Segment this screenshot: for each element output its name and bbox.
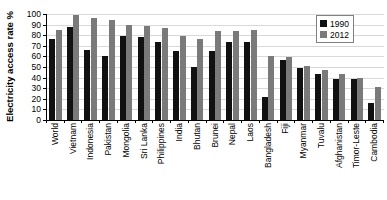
bar-2012-mongolia [126,25,132,120]
bar-2012-myanmar [304,66,310,120]
bar-group [153,14,171,120]
y-tick-label: 30 [32,84,41,92]
x-tick-mark [330,120,331,123]
bar-2012-tuvalu [322,70,328,120]
bar-1990-india [173,51,179,120]
x-tick-mark [99,120,100,123]
bar-2012-afghanistan [339,74,345,120]
x-tick-mark [241,120,242,123]
bar-1990-fiji [280,60,286,120]
bar-group [278,14,296,120]
bar-1990-indonesia [84,50,90,120]
bar-2012-fiji [286,57,292,120]
legend-item: 1990 [320,18,349,29]
bar-group [260,14,278,120]
bar-1990-philippines [155,42,161,120]
bar-1990-afghanistan [333,79,339,120]
bar-group [366,14,384,120]
x-tick-mark [348,120,349,123]
electricity-access-rate-bar-chart: Electricity access rate % 01020304050607… [0,0,387,200]
bar-1990-brunei [209,51,215,120]
bar-1990-mongolia [120,36,126,120]
x-tick-mark [223,120,224,123]
x-tick-mark [365,120,366,123]
y-tick-label: 100 [27,10,41,18]
bar-group [100,14,118,120]
x-tick-mark [152,120,153,123]
bar-1990-laos [244,42,250,120]
legend-label-1990: 1990 [330,19,349,29]
x-tick-mark [46,120,47,123]
y-tick-label: 10 [32,105,41,113]
bar-group [47,14,65,120]
bar-1990-sri-lanka [138,37,144,120]
bar-2012-brunei [215,31,221,120]
bar-1990-pakistan [102,56,108,120]
bar-group [207,14,225,120]
y-tick-label: 90 [32,21,41,29]
y-tick-label: 60 [32,52,41,60]
legend-item: 2012 [320,29,349,40]
x-tick-mark [294,120,295,123]
bar-group [295,14,313,120]
bar-1990-myanmar [297,68,303,120]
x-tick-mark [170,120,171,123]
bar-2012-vietnam [73,15,79,120]
bar-2012-india [180,36,186,120]
bar-group [136,14,154,120]
x-tick-mark [135,120,136,123]
bar-group [82,14,100,120]
x-tick-mark [117,120,118,123]
y-axis-ticks: 0102030405060708090100 [0,14,46,120]
bar-2012-laos [251,30,257,120]
bar-2012-bhutan [197,39,203,120]
bar-1990-tuvalu [315,74,321,120]
x-tick-mark [277,120,278,123]
bar-group [189,14,207,120]
bar-2012-nepal [233,31,239,120]
bar-2012-indonesia [91,18,97,120]
legend-swatch-1990-icon [320,20,327,27]
bar-2012-sri-lanka [144,26,150,120]
bar-1990-nepal [226,42,232,120]
y-tick-label: 70 [32,42,41,50]
y-tick-label: 20 [32,95,41,103]
bar-2012-cambodia [375,87,381,120]
bar-1990-bhutan [191,67,197,120]
bar-group [65,14,83,120]
bar-2012-philippines [162,28,168,120]
bar-1990-world [49,39,55,120]
x-tick-mark [81,120,82,123]
x-tick-mark [64,120,65,123]
x-axis-category-labels: WorldVietnamIndonesiaPakistanMongoliaSri… [46,123,383,200]
chart-legend: 1990 2012 [316,15,354,43]
bar-2012-bangladesh [268,56,274,120]
legend-label-2012: 2012 [330,30,349,40]
bar-2012-world [56,30,62,120]
x-tick-mark [188,120,189,123]
bar-1990-vietnam [67,27,73,120]
y-tick-label: 40 [32,74,41,82]
y-tick-label: 0 [36,116,41,124]
bar-group [118,14,136,120]
bar-group [171,14,189,120]
bar-group [242,14,260,120]
legend-swatch-2012-icon [320,31,327,38]
bar-2012-timor-leste [357,78,363,120]
x-tick-mark [206,120,207,123]
bar-1990-cambodia [368,103,374,120]
y-tick-label: 80 [32,31,41,39]
bar-1990-bangladesh [262,97,268,120]
bar-1990-timor-leste [351,79,357,120]
x-tick-mark [259,120,260,123]
x-tick-mark [383,120,384,123]
bar-group [224,14,242,120]
bar-2012-pakistan [109,20,115,120]
y-tick-label: 50 [32,63,41,71]
x-tick-mark [312,120,313,123]
